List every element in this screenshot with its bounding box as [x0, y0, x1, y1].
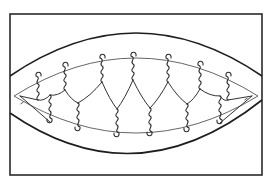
- lower-twist-1: [47, 95, 52, 123]
- upper-twist-1: [36, 72, 41, 100]
- strand-segment: [102, 82, 117, 109]
- upper-twist-4: [131, 52, 136, 80]
- braided-strands-diagram: [0, 0, 275, 187]
- lower-twist-3: [114, 109, 119, 137]
- lower-twist-5: [184, 104, 189, 132]
- end-tick-1: [21, 102, 24, 104]
- upper-twist-2: [63, 62, 68, 90]
- lower-twist-4: [147, 108, 152, 136]
- upper-twist-3: [100, 54, 105, 82]
- strand-segment: [200, 89, 220, 96]
- strand-left-lower: [20, 96, 50, 122]
- strand-segment: [168, 82, 187, 104]
- strand-segment: [150, 82, 168, 108]
- inner-lens-top-arc: [14, 58, 258, 96]
- lower-twist-row: [47, 95, 222, 137]
- border-frame: [10, 14, 262, 175]
- strand-segment: [133, 80, 150, 108]
- strand-segment: [78, 82, 102, 103]
- upper-twist-5: [166, 54, 171, 82]
- diagram-canvas: [0, 0, 275, 187]
- end-tick-marks: [21, 98, 248, 104]
- strand-segment: [117, 80, 133, 109]
- upper-twist-row: [36, 52, 231, 100]
- strand-segment: [187, 89, 200, 104]
- lower-twist-6: [217, 96, 222, 124]
- lower-twist-2: [75, 103, 80, 131]
- outer-lens-bottom-arc: [10, 100, 262, 153]
- strand-segment: [38, 95, 50, 100]
- strand-segment: [50, 90, 65, 95]
- upper-twist-6: [198, 61, 203, 89]
- strand-segment: [65, 90, 78, 103]
- upper-twist-7: [226, 72, 231, 100]
